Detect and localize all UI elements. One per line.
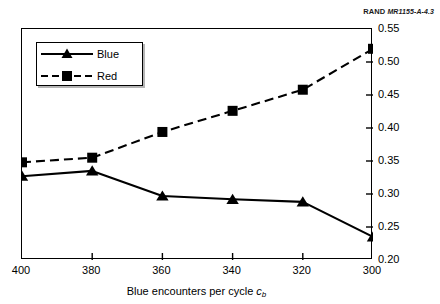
y-axis-tick-label: 0.35 xyxy=(378,154,399,166)
legend-label-red: Red xyxy=(97,71,117,82)
x-axis-tick-label: 400 xyxy=(12,264,30,276)
x-axis-tick-label: 380 xyxy=(82,264,100,276)
y-axis-tick-label: 0.40 xyxy=(378,121,399,133)
x-axis-title: Blue encounters per cycle cb xyxy=(21,285,372,297)
legend-item-red: Red xyxy=(37,65,142,87)
rand-logo-text: RAND xyxy=(363,7,385,16)
x-axis-title-subscript: b xyxy=(262,290,266,299)
y-axis-tick-label: 0.20 xyxy=(378,253,399,265)
data-point-marker-red xyxy=(157,127,167,137)
x-axis-tick-label: 340 xyxy=(222,264,240,276)
data-point-marker-red xyxy=(298,85,308,95)
y-axis-tick-label: 0.45 xyxy=(378,88,399,100)
series-line-blue xyxy=(22,171,373,237)
data-point-marker-red xyxy=(368,44,373,54)
data-point-marker-red xyxy=(228,106,238,116)
chart-legend: Blue Red xyxy=(36,42,143,86)
legend-label-blue: Blue xyxy=(97,49,119,60)
legend-swatch-red-icon xyxy=(37,66,97,86)
x-axis-tick-label: 360 xyxy=(152,264,170,276)
y-axis-tick-label: 0.50 xyxy=(378,55,399,67)
data-point-marker-red xyxy=(22,157,27,167)
x-axis-tick-marks xyxy=(92,253,303,260)
y-axis-title: Fraction surviving at t = 5 xyxy=(426,0,440,28)
x-axis-tick-label: 320 xyxy=(293,264,311,276)
x-axis-tick-label: 300 xyxy=(363,264,381,276)
y-axis-tick-label: 0.55 xyxy=(378,22,399,34)
legend-item-blue: Blue xyxy=(37,43,142,65)
y-axis-tick-marks xyxy=(366,62,373,227)
x-axis-title-prefix: Blue encounters per cycle xyxy=(127,285,257,297)
y-axis-tick-label: 0.25 xyxy=(378,220,399,232)
rand-credit-line: RAND MR1155-A-4.3 xyxy=(363,7,434,16)
data-point-marker-red xyxy=(87,153,97,163)
y-axis-tick-label: 0.30 xyxy=(378,187,399,199)
legend-swatch-blue-icon xyxy=(37,44,97,64)
